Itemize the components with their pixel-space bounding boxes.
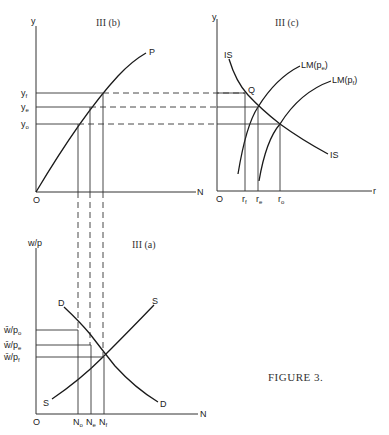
y-e-label: ye: [21, 102, 30, 113]
dashed-employment-connectors: [78, 192, 103, 357]
svg-text:yf: yf: [21, 88, 28, 99]
lm-pe-curve: [238, 66, 300, 174]
is-label-bottom: IS: [330, 150, 339, 160]
panel-a-y-axis-label: w/p: [27, 238, 42, 248]
lm-pf-label: LM(pf): [332, 75, 357, 86]
is-label-top: IS: [224, 50, 233, 60]
n-e-label: Ne: [86, 417, 97, 428]
panel-b-origin-label: O: [33, 195, 40, 205]
figure-3-diagram: y III (b) O P yf ye yo N y: [0, 0, 389, 435]
panel-b-y-axis-label: y: [31, 16, 36, 26]
panel-a-n-axis-label: N: [200, 409, 207, 419]
wage-o-label: w̄/po: [3, 325, 22, 336]
panel-b-title: III (b): [96, 17, 120, 29]
demand-label-bottom: D: [160, 399, 167, 409]
lm-pe-label: LM(pe): [301, 60, 328, 71]
supply-label-top: S: [152, 296, 158, 306]
wage-e-label: w̄/pe: [3, 340, 22, 351]
svg-text:yo: yo: [21, 119, 30, 130]
r-o-label: ro: [278, 194, 285, 205]
wage-f-label: w̄/pf: [3, 352, 20, 363]
panel-b-production-function: y III (b) O P yf ye yo N: [21, 16, 245, 205]
panel-c-is-lm: y III (c) O r IS IS Q LM(pe) LM(pf) rf r…: [212, 12, 376, 205]
panel-a-labor-market: w/p III (a) O N D D S S w̄/po w̄/pe w̄/p…: [3, 238, 207, 428]
curve-p-label: P: [149, 47, 155, 57]
is-curve: [229, 59, 328, 154]
supply-label-bottom: S: [43, 398, 49, 408]
r-f-label: rf: [242, 194, 247, 205]
panel-c-origin-label: O: [216, 194, 223, 204]
n-f-label: Nf: [99, 417, 108, 428]
panel-c-r-axis-label: r: [373, 186, 376, 196]
panel-b-n-axis-label: N: [197, 187, 204, 197]
panel-a-origin-label: O: [33, 417, 40, 427]
lm-pf-curve: [259, 81, 331, 181]
demand-label-top: D: [58, 298, 65, 308]
y-f-label: yf: [21, 88, 28, 99]
figure-caption: FIGURE 3.: [268, 371, 323, 383]
r-e-label: re: [256, 194, 263, 205]
point-q-label: Q: [248, 85, 255, 95]
panel-c-y-axis-label: y: [212, 12, 217, 22]
svg-text:ye: ye: [21, 102, 30, 113]
y-o-label: yo: [21, 119, 30, 130]
production-curve-p: [36, 53, 146, 192]
n-o-label: No: [73, 417, 84, 428]
panel-a-title: III (a): [132, 239, 156, 251]
panel-c-title: III (c): [275, 17, 299, 29]
